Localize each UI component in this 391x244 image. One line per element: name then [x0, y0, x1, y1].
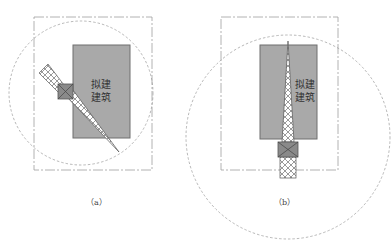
crane-layout-diagram: 拟建 建筑 （a） 拟建 建筑 （b） [0, 0, 391, 244]
caption-a: （a） [86, 198, 107, 207]
building-label-line1: 拟建 [91, 78, 111, 90]
building-label-line2: 建筑 [295, 91, 315, 103]
caption-b: （b） [274, 198, 295, 207]
panel-a: 拟建 建筑 （a） [9, 17, 153, 207]
building-label-line2: 建筑 [91, 91, 111, 103]
panel-b: 拟建 建筑 （b） [186, 17, 390, 239]
building-label-line1: 拟建 [295, 78, 315, 90]
